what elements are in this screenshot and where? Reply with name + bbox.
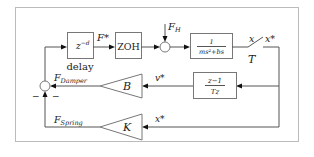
- f-star-label: F*: [96, 32, 109, 43]
- delay-caption: delay: [66, 61, 93, 72]
- plant-denominator: ms²+bs: [199, 48, 225, 56]
- x-star-top-label: x*: [265, 33, 275, 44]
- block-diagram: z−d delay F* ZOH FH 1 ms²+bs x x* T z−1 …: [0, 0, 314, 157]
- zoh-label: ZOH: [117, 41, 140, 52]
- damper-gain-label: B: [122, 80, 131, 93]
- left-summing-junction: [40, 81, 50, 91]
- arrowhead-icon: [50, 84, 56, 89]
- x-star-bottom-label: x*: [155, 114, 165, 124]
- arrowhead-icon: [43, 91, 48, 97]
- f-h-label: FH: [167, 21, 181, 34]
- spring-gain-block: [100, 114, 142, 140]
- f-damper-label: FDamper: [53, 72, 88, 85]
- sum-sign-b: −: [52, 91, 60, 101]
- f-spring-label: FSpring: [53, 114, 83, 127]
- x-star-wire: [263, 47, 279, 127]
- arrowhead-icon: [61, 45, 67, 50]
- plant-numerator: 1: [209, 38, 213, 46]
- diff-denominator: Tz: [211, 88, 220, 96]
- arrowhead-icon: [163, 36, 168, 42]
- arrowhead-icon: [154, 45, 160, 50]
- x-label: x: [249, 33, 255, 44]
- sampler-switch: [232, 37, 263, 47]
- arrowhead-icon: [184, 45, 190, 50]
- sample-period-label: T: [248, 53, 257, 66]
- sum-sign-a: −: [32, 91, 40, 101]
- arrowhead-icon: [142, 125, 148, 130]
- arrowhead-icon: [109, 45, 115, 50]
- arrowhead-icon: [142, 84, 148, 89]
- spring-gain-label: K: [122, 121, 132, 134]
- damper-gain-block: [100, 74, 142, 98]
- diff-numerator: z−1: [207, 77, 222, 85]
- top-summing-junction: [160, 42, 170, 52]
- v-star-label: v*: [155, 73, 165, 83]
